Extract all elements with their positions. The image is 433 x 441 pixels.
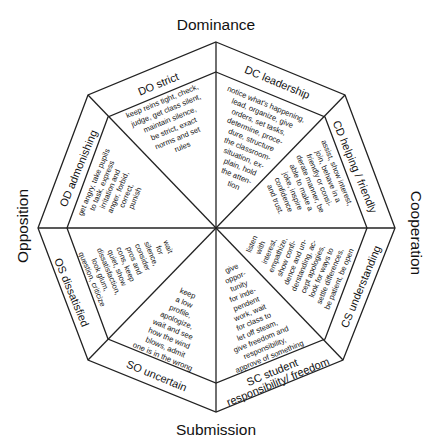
sector-description: keep a low profile, apologize, wait and … <box>132 277 220 373</box>
interpersonal-behaviour-octagon-diagram: Dominance Submission Opposition Cooperat… <box>0 0 433 441</box>
sector-description: wait for silence, consider pros and cons… <box>77 219 184 308</box>
sector-so-uncertain: SO uncertain keep a low profile, apologi… <box>125 277 220 393</box>
axis-label-opposition: Opposition <box>14 189 31 263</box>
axis-label-submission: Submission <box>176 421 256 438</box>
axis-label-dominance: Dominance <box>177 16 255 33</box>
axis-label-cooperation: Cooperation <box>408 191 425 275</box>
sector-do-strict: DO strict keep reins tight, check, judge… <box>125 70 221 166</box>
octagon-frame <box>38 42 395 412</box>
